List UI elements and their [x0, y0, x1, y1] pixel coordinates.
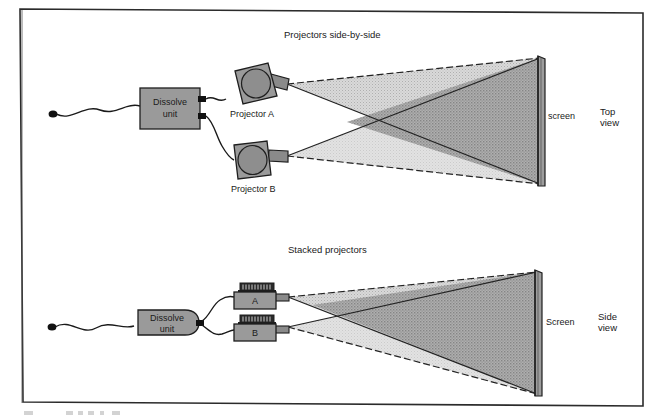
page-background [0, 0, 658, 415]
top-view-label-line1: Top [600, 106, 615, 117]
top-dissolve-label-line1: Dissolve [153, 97, 187, 107]
projector-a-side-label: A [252, 296, 258, 306]
projector-a-label: Projector A [230, 109, 274, 119]
caption-clipped [0, 409, 658, 415]
cable-plug-icon [48, 323, 57, 330]
top-dissolve-label-line2: unit [163, 109, 178, 119]
top-dissolve-connector-b [198, 113, 206, 119]
figure-root: Projectors side-by-side [0, 0, 658, 415]
top-view-title: Projectors side-by-side [284, 29, 381, 40]
side-view-title: Stacked projectors [288, 244, 367, 255]
side-view-label: Side view [598, 311, 617, 333]
projector-a-lens-icon [242, 69, 271, 98]
top-view-screen-label: screen [548, 111, 575, 121]
side-view-label-line2: view [598, 322, 617, 333]
projector-a-lens-icon [275, 294, 289, 301]
projector-b-lens-icon [238, 146, 267, 175]
top-dissolve-connector-a [198, 96, 206, 102]
projector-b-label: Projector B [231, 184, 276, 194]
side-dissolve-label-line1: Dissolve [150, 313, 184, 323]
top-view-label-line2: view [600, 117, 619, 128]
side-view-screen [535, 270, 542, 396]
side-view-label-line1: Side [598, 311, 617, 322]
side-view-dissolve-unit: Dissolve unit [138, 310, 204, 335]
projector-b-lens-icon [275, 326, 289, 333]
cable-plug-icon [49, 110, 58, 117]
top-view-screen [538, 56, 545, 186]
projector-b-side-label: B [252, 328, 258, 338]
side-dissolve-label-line2: unit [160, 324, 175, 334]
top-view-dissolve-unit: Dissolve unit [140, 88, 206, 129]
side-view-screen-label: Screen [546, 317, 575, 327]
